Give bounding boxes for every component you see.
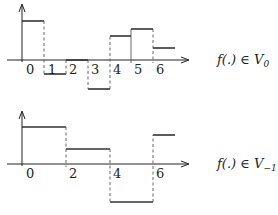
tick-label-5: 5 bbox=[134, 62, 142, 77]
tick-label-4: 4 bbox=[113, 62, 121, 77]
tick-label-1: 1 bbox=[48, 62, 56, 77]
tick-label-0: 0 bbox=[26, 166, 34, 181]
tick-label-6: 6 bbox=[156, 62, 164, 77]
diagram-canvas: 0 1 2 3 4 5 6 f(.) ∈ V0 0 2 4 6 f(.) ∈ V… bbox=[0, 0, 278, 215]
tick-label-2: 2 bbox=[69, 166, 77, 181]
tick-label-3: 3 bbox=[91, 62, 99, 77]
tick-label-0: 0 bbox=[26, 62, 34, 77]
caption-v0: f(.) ∈ V0 bbox=[216, 52, 269, 69]
plot-v0: 0 1 2 3 4 5 6 f(.) ∈ V0 bbox=[7, 4, 269, 89]
tick-label-6: 6 bbox=[156, 166, 164, 181]
tick-label-2: 2 bbox=[69, 62, 77, 77]
caption-v-1: f(.) ∈ V−1 bbox=[216, 156, 277, 173]
tick-label-4: 4 bbox=[113, 166, 121, 181]
plot-v-1: 0 2 4 6 f(.) ∈ V−1 bbox=[7, 111, 277, 202]
